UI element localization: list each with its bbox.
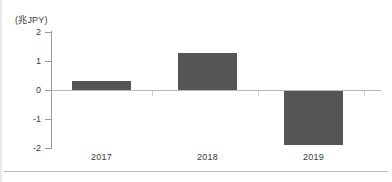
chart-figure: (兆JPY) 2 1 0 -1 -2 2017 2018 2019: [0, 0, 392, 182]
y-tick-label-minus-1: -1: [11, 114, 41, 124]
y-axis-unit-label: (兆JPY): [15, 13, 48, 26]
category-tick-3: [364, 91, 365, 96]
y-tick-mark-minus-2: [45, 148, 51, 149]
bar-2018[interactable]: [178, 53, 237, 90]
bar-2019[interactable]: [284, 91, 343, 145]
y-tick-label-0: 0: [11, 85, 41, 95]
y-tick-mark-1: [45, 61, 51, 62]
bar-2017[interactable]: [72, 81, 131, 90]
category-tick-1: [152, 91, 153, 96]
x-axis-label-2018: 2018: [178, 152, 237, 162]
bottom-separator-rule: [4, 171, 388, 172]
x-axis-label-2017: 2017: [72, 152, 131, 162]
category-tick-2: [258, 91, 259, 96]
x-axis-label-2019: 2019: [284, 152, 343, 162]
y-tick-label-2: 2: [11, 27, 41, 37]
page-left-edge: [0, 0, 2, 182]
y-tick-label-1: 1: [11, 56, 41, 66]
y-tick-label-minus-2: -2: [11, 143, 41, 153]
y-tick-mark-minus-1: [45, 119, 51, 120]
y-tick-mark-2: [45, 32, 51, 33]
